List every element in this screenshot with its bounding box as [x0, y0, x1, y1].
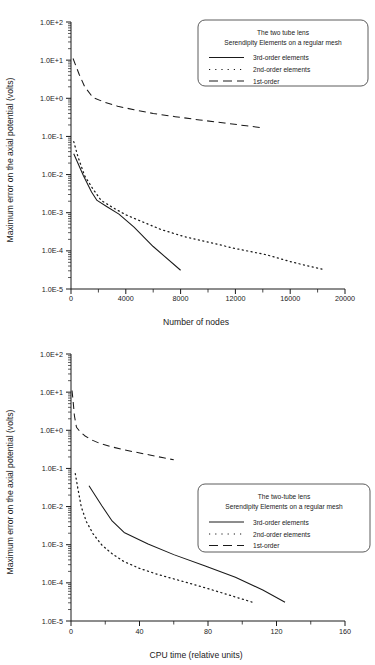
y-axis-title: Maximum error on the axial potential (vo…	[5, 409, 15, 574]
x-tick-label: 120	[271, 627, 283, 636]
legend-box-nodes: The two tube lens Serendipity Elements o…	[198, 20, 368, 86]
y-tick-label: 1.0E+0	[40, 94, 63, 103]
chart-cputime-canvas: 1.0E+21.0E+11.0E+01.0E-11.0E-21.0E-31.0E…	[0, 332, 375, 665]
legend-box-cputime: The two-tube lens Serendipity Elements o…	[198, 484, 370, 552]
y-tick-label: 1.0E-4	[42, 578, 63, 587]
y-axis-ticks-0	[66, 22, 71, 289]
x-axis-ticks-0	[71, 289, 345, 294]
y-tick-label: 1.0E-5	[42, 285, 63, 294]
y-tick-label: 1.0E-2	[42, 502, 63, 511]
legend-label-3rd-order: 3rd-order elements	[253, 519, 309, 526]
legend-title-line1: The two tube lens	[257, 29, 310, 36]
legend-label-2nd-order: 2nd-order elements	[253, 531, 311, 538]
x-axis-title: Number of nodes	[163, 317, 229, 327]
x-tick-label: 12000	[225, 294, 245, 303]
y-axis-title: Maximum error on the axial potential (vo…	[5, 77, 15, 242]
y-tick-label: 1.0E+1	[40, 56, 63, 65]
y-tick-label: 1.0E-4	[42, 246, 63, 255]
legend-title-line2: Serendipity Elements on a regular mesh	[224, 39, 342, 47]
legend-label-2nd-order: 2nd-order elements	[253, 66, 311, 73]
x-tick-label: 40	[136, 627, 144, 636]
series-dashed	[72, 391, 174, 460]
chart-nodes-block: 1.0E+21.0E+11.0E+01.0E-11.0E-21.0E-31.0E…	[0, 0, 375, 332]
x-tick-label: 16000	[280, 294, 300, 303]
legend-label-1st-order: 1st-order	[253, 542, 280, 549]
figure-page: 1.0E+21.0E+11.0E+01.0E-11.0E-21.0E-31.0E…	[0, 0, 375, 665]
y-tick-label: 1.0E+1	[40, 388, 63, 397]
chart-cputime-block: 1.0E+21.0E+11.0E+01.0E-11.0E-21.0E-31.0E…	[0, 332, 375, 665]
x-tick-label: 80	[204, 627, 212, 636]
series-layer-0	[73, 59, 324, 271]
y-tick-label: 1.0E-1	[42, 132, 63, 141]
x-tick-label: 0	[69, 627, 73, 636]
x-tick-label: 8000	[173, 294, 189, 303]
y-tick-label: 1.0E-2	[42, 170, 63, 179]
x-tick-label: 0	[69, 294, 73, 303]
legend-title-line1: The two-tube lens	[258, 493, 311, 500]
y-tick-label: 1.0E+2	[40, 18, 63, 27]
x-axis-title: CPU time (relative units)	[149, 650, 242, 660]
series-dotted	[74, 142, 325, 270]
legend-title-line2: Serendipity Elements on a regular mesh	[225, 503, 343, 511]
x-axis-ticks-1	[71, 621, 345, 626]
y-tick-label: 1.0E-3	[42, 208, 63, 217]
chart-nodes-canvas: 1.0E+21.0E+11.0E+01.0E-11.0E-21.0E-31.0E…	[0, 0, 375, 332]
x-tick-label: 4000	[118, 294, 134, 303]
y-axis-ticks-1	[66, 354, 71, 621]
y-tick-label: 1.0E-3	[42, 540, 63, 549]
x-tick-label: 160	[339, 627, 351, 636]
y-tick-label: 1.0E+0	[40, 426, 63, 435]
legend-label-1st-order: 1st-order	[253, 78, 280, 85]
x-tick-label: 20000	[335, 294, 355, 303]
series-solid	[74, 154, 181, 270]
y-tick-label: 1.0E+2	[40, 350, 63, 359]
legend-label-3rd-order: 3rd-order elements	[253, 54, 309, 61]
y-tick-label: 1.0E-5	[42, 617, 63, 626]
y-tick-label: 1.0E-1	[42, 464, 63, 473]
